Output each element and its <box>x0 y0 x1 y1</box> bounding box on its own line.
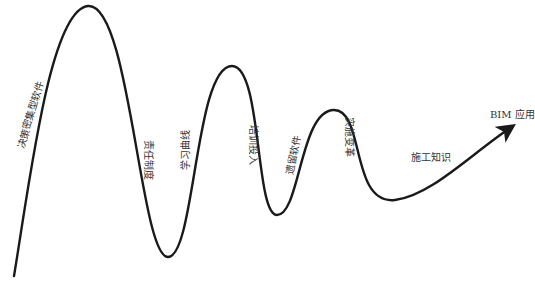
label-bim-application: BIM 应用 <box>490 110 535 120</box>
label-training-investment: 培训投入 <box>248 125 258 165</box>
wave-curve-arrow <box>14 6 510 276</box>
label-construction-knowledge: 施工知识 <box>411 153 451 163</box>
label-learning-curve: 学习曲线 <box>181 130 191 170</box>
label-implementation-change: 实施变革 <box>344 117 354 157</box>
label-responsibility-system: 责任制度 <box>143 140 153 180</box>
